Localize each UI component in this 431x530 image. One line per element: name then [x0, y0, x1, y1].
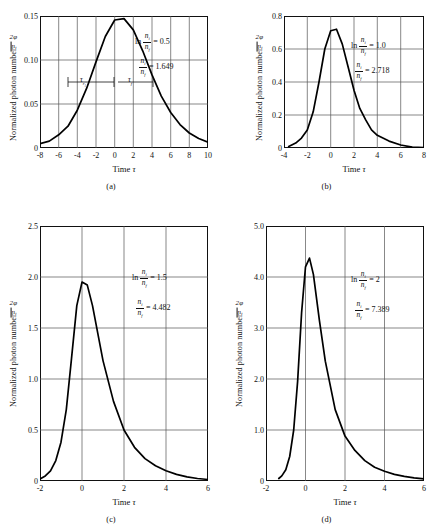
panel-a-xtick-1: -6: [55, 151, 62, 160]
panel-c-y-axis-label: Normalized photon number 2φ nt: [4, 228, 23, 483]
panel-c-plot: ln ni nf = 1.5 ni nf = 4.482: [40, 226, 208, 481]
panel-d-x-axis-label: Time τ: [266, 497, 424, 507]
panel-b-plot: ln ni nf = 1.0 ni nf = 2.718: [284, 16, 424, 148]
panel-d-annotation-ln: ln ni nf = 2: [351, 270, 380, 291]
panel-c-xtick-3: 4: [164, 484, 168, 493]
panel-d-svg: [266, 226, 424, 481]
panel-a-xtick-0: -8: [37, 151, 44, 160]
panel-b-xtick-0: -4: [281, 151, 288, 160]
panel-c-svg: [40, 226, 208, 481]
panel-a-x-axis-label: Time τ: [40, 164, 208, 174]
panel-c-ytick-1: 0.5: [14, 426, 38, 435]
y-axis-label-fraction: 2φ nt: [10, 299, 18, 318]
figure-photon-number-panels: Normalized photon number 2φ nt: [0, 0, 431, 530]
panel-a-ytick-2: 0.10: [12, 56, 38, 65]
panel-c-xtick-2: 2: [122, 484, 126, 493]
panel-c-ytick-0: 0: [22, 477, 38, 486]
y-axis-label-fraction: 2φ nt: [10, 33, 18, 52]
panel-b-xtick-4: 4: [375, 151, 379, 160]
panel-d-plot: ln ni nf = 2 ni nf = 7.389: [266, 226, 424, 481]
panel-d-xtick-4: 6: [422, 484, 426, 493]
panel-d-ytick-3: 3.0: [240, 324, 264, 333]
panel-b-caption: (b): [222, 182, 431, 191]
panel-d-ytick-0: 0: [248, 477, 264, 486]
tau-rise-label: τr1: [80, 75, 86, 87]
panel-a-xtick-3: -2: [93, 151, 100, 160]
panel-c-xtick-4: 6: [206, 484, 210, 493]
panel-d: Normalized photon number 2φ nt: [222, 212, 431, 530]
panel-a-xtick-6: 4: [150, 151, 154, 160]
panel-a-annotation-ln: ln ni nf = 0.5: [135, 32, 170, 53]
panel-c-annotation-ln: ln ni nf = 1.5: [132, 268, 167, 289]
panel-d-xtick-3: 4: [383, 484, 387, 493]
panel-a-y-axis-label: Normalized photon number 2φ nt: [4, 18, 23, 160]
panel-c-ytick-5: 2.5: [14, 222, 38, 231]
panel-c-caption: (c): [0, 515, 222, 524]
panel-a-annotation-ratio: ni nf = 1.649: [139, 57, 174, 78]
panel-c-ytick-4: 2.0: [14, 273, 38, 282]
panel-b-ytick-3: 0.6: [258, 45, 282, 54]
panel-b: Normalized photon number 2φ nt: [222, 2, 431, 202]
panel-a-plot: τr1 τf ln ni nf = 0.5 ni: [40, 16, 208, 148]
tau-fall-label: τf: [128, 75, 132, 86]
panel-c-xtick-0: -2: [37, 484, 44, 493]
panel-c-annotation-ratio: ni nf = 4.482: [136, 298, 171, 319]
panel-b-ytick-2: 0.4: [258, 78, 282, 87]
panel-d-xtick-2: 2: [343, 484, 347, 493]
panel-a-xtick-8: 8: [187, 151, 191, 160]
panel-a-ytick-0: 0: [22, 144, 38, 153]
panel-a-xtick-9: 10: [204, 151, 212, 160]
panel-b-y-axis-label: Normalized photon number 2φ nt: [250, 18, 269, 160]
panel-a-xtick-7: 6: [169, 151, 173, 160]
y-axis-label-fraction: 2φ nt: [236, 299, 244, 318]
panel-b-annotation-ln: ln ni nf = 1.0: [351, 36, 386, 57]
y-axis-label-text: Normalized photon number: [255, 48, 264, 141]
panel-b-xtick-3: 2: [352, 151, 356, 160]
panel-c-ytick-3: 1.5: [14, 324, 38, 333]
panel-d-annotation-ratio: ni nf = 7.389: [355, 300, 390, 321]
panel-d-xtick-0: -2: [263, 484, 270, 493]
y-axis-den: nt: [10, 42, 16, 52]
panel-a-xtick-4: 0: [113, 151, 117, 160]
panel-c: Normalized photon number 2φ nt: [0, 212, 222, 530]
panel-b-xtick-2: 0: [329, 151, 333, 160]
panel-b-ytick-4: 0.8: [258, 12, 282, 21]
panel-b-x-axis-label: Time τ: [284, 164, 424, 174]
panel-d-xtick-1: 0: [304, 484, 308, 493]
panel-a-ytick-3: 0.15: [12, 12, 38, 21]
panel-d-caption: (d): [222, 515, 431, 524]
panel-b-xtick-5: 6: [399, 151, 403, 160]
panel-a-svg: [40, 16, 208, 148]
panel-d-ytick-1: 1.0: [240, 426, 264, 435]
panel-d-ytick-5: 5.0: [240, 222, 264, 231]
panel-b-ytick-1: 0.2: [258, 111, 282, 120]
panel-c-ytick-2: 1.0: [14, 375, 38, 384]
panel-b-annotation-ratio: ni nf = 2.718: [355, 61, 390, 82]
panel-b-xtick-1: -2: [304, 151, 311, 160]
panel-d-ytick-4: 4.0: [240, 273, 264, 282]
panel-a-ytick-1: 0.05: [12, 100, 38, 109]
panel-c-x-axis-label: Time τ: [40, 497, 208, 507]
panel-d-ytick-2: 2.0: [240, 375, 264, 384]
panel-d-y-axis-label: Normalized photon number 2φ nt: [230, 228, 249, 483]
y-axis-num: 2φ: [10, 33, 18, 42]
panel-c-xtick-1: 0: [80, 484, 84, 493]
panel-a: Normalized photon number 2φ nt: [0, 2, 222, 202]
panel-a-caption: (a): [0, 182, 222, 191]
panel-a-xtick-5: 2: [131, 151, 135, 160]
panel-b-xtick-6: 8: [422, 151, 426, 160]
panel-b-ytick-0: 0: [266, 144, 282, 153]
panel-a-xtick-2: -4: [74, 151, 81, 160]
